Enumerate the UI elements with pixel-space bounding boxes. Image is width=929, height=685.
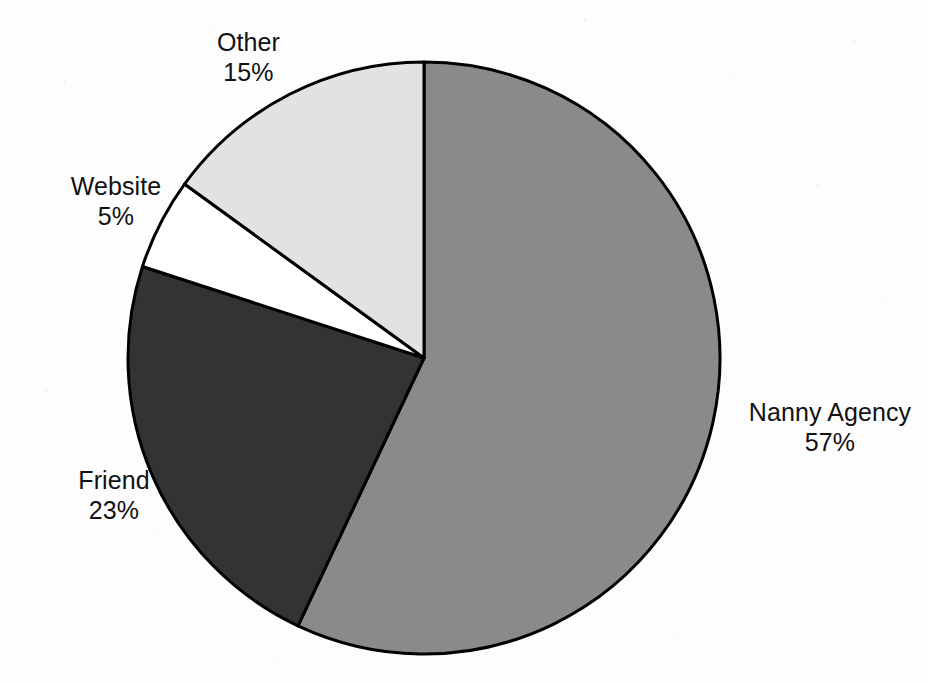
pie-chart-graphic [0,0,929,685]
pie-label-nanny-agency-percent: 57% [731,428,929,458]
pie-label-nanny-agency: Nanny Agency 57% [731,398,929,457]
pie-label-website-name: Website [40,172,192,202]
pie-label-nanny-agency-name: Nanny Agency [731,398,929,428]
pie-slices-group [128,62,720,654]
pie-label-friend-name: Friend [38,466,190,496]
pie-label-friend-percent: 23% [38,496,190,526]
pie-label-other-name: Other [176,28,321,58]
pie-label-other: Other 15% [176,28,321,87]
pie-label-friend: Friend 23% [38,466,190,525]
pie-label-website-percent: 5% [40,202,192,232]
pie-label-other-percent: 15% [176,58,321,88]
pie-label-website: Website 5% [40,172,192,231]
pie-chart-page: Other 15% Website 5% Friend 23% Nanny Ag… [0,0,929,685]
